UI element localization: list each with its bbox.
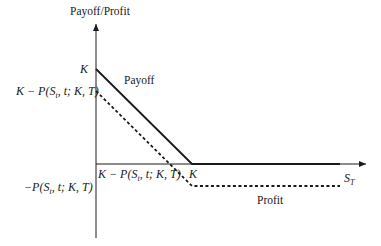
y-tick-neg-premium: −P(St, t; K, T) [24, 181, 93, 196]
payoff-label: Payoff [124, 75, 154, 87]
y-tick-neg-premium-main: −P(S [24, 180, 49, 194]
x-tick-breakeven: K − P(St, t; K, T) [98, 168, 181, 183]
payoff-profit-chart [0, 0, 381, 246]
x-axis-title: ST [344, 172, 354, 187]
x-tick-breakeven-main: K − P(S [98, 167, 137, 181]
profit-label: Profit [257, 195, 283, 207]
x-tick-breakeven-tail: , t; K, T) [140, 167, 181, 181]
y-tick-k-minus-premium: K − P(St, t; K, T) [16, 85, 99, 100]
y-axis-title: Payoff/Profit [70, 6, 130, 18]
y-tick-k-minus-premium-main: K − P(S [16, 84, 55, 98]
x-axis-title-sub: T [350, 178, 354, 187]
y-tick-k-minus-premium-tail: , t; K, T) [58, 84, 99, 98]
y-tick-k: K [80, 63, 88, 75]
y-tick-neg-premium-tail: , t; K, T) [52, 180, 93, 194]
x-tick-k: K [189, 168, 197, 180]
